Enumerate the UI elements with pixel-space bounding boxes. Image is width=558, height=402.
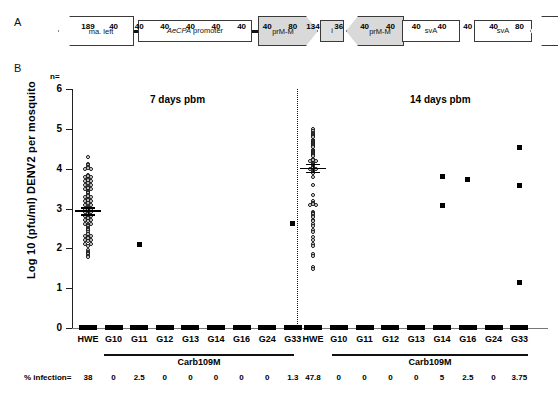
zero-bar-9 <box>304 325 322 330</box>
data-point <box>311 193 315 197</box>
zero-bar-13 <box>407 325 425 330</box>
data-point <box>86 255 90 259</box>
y-tick-label-3: 3 <box>48 203 62 214</box>
y-tick-label-5: 5 <box>48 123 62 134</box>
data-point <box>311 244 315 248</box>
data-point <box>440 203 445 208</box>
zero-bar-12 <box>381 325 399 330</box>
zero-bar-15 <box>459 325 477 330</box>
data-point <box>517 145 522 150</box>
y-tick-4 <box>66 169 72 170</box>
y-tick-label-0: 0 <box>48 322 62 333</box>
zero-bar-14 <box>433 325 451 330</box>
panel-a-letter: A <box>14 16 21 28</box>
data-point <box>137 242 142 247</box>
data-point <box>517 183 522 188</box>
y-tick-3 <box>66 209 72 210</box>
zero-bar-17 <box>510 325 528 330</box>
zero-bar-4 <box>181 325 199 330</box>
data-point <box>311 175 315 179</box>
construct-element-prm-m-anti: prM-M <box>346 16 404 46</box>
n-value-17: 80 <box>504 22 534 31</box>
data-point <box>311 238 315 242</box>
y-axis-line <box>72 89 73 328</box>
data-point <box>311 254 315 258</box>
group-caption-7-days: Carb109M <box>144 357 254 367</box>
zero-bar-16 <box>485 325 503 330</box>
y-tick-0 <box>66 328 72 329</box>
y-tick-label-6: 6 <box>48 83 62 94</box>
y-tick-label-4: 4 <box>48 163 62 174</box>
scatter-plot: Log 10 (pfu/ml) DENV2 per mosquito 7 day… <box>0 56 558 402</box>
zero-bar-8 <box>284 325 302 330</box>
x-tick-label-17-g33: G33 <box>504 334 534 344</box>
construct-element-egfp: EGFP <box>530 16 558 46</box>
construct-element-ma-left: ma. left <box>58 16 134 46</box>
error-bar-cap-lower <box>306 172 320 174</box>
group-caption-14-days: Carb109M <box>375 357 485 367</box>
zero-bar-1 <box>105 325 123 330</box>
zero-bar-5 <box>207 325 225 330</box>
data-point <box>440 174 445 179</box>
phase-label-14-days: 14 days pbm <box>410 94 471 105</box>
data-point <box>83 167 87 171</box>
data-point <box>86 155 90 159</box>
pct-infection-row-label: % infection= <box>24 373 71 382</box>
zero-bar-10 <box>330 325 348 330</box>
pct-infection-value-17: 3.75 <box>504 373 534 382</box>
data-point <box>311 183 315 187</box>
data-point <box>314 203 318 207</box>
construct-element-prm-m-sense: prM-M <box>258 16 318 46</box>
group-line-7-days <box>104 354 294 356</box>
data-point <box>89 167 93 171</box>
zero-bar-0 <box>79 325 97 330</box>
phase-divider <box>297 89 298 328</box>
error-bar-cap-lower <box>81 214 95 216</box>
zero-bar-2 <box>130 325 148 330</box>
data-point <box>308 203 312 207</box>
error-bar-cap-upper <box>81 207 95 209</box>
y-tick-label-1: 1 <box>48 282 62 293</box>
data-point <box>290 221 295 226</box>
data-point <box>311 230 315 234</box>
zero-bar-6 <box>233 325 251 330</box>
zero-bar-7 <box>258 325 276 330</box>
group-line-14-days <box>332 354 528 356</box>
phase-label-7-days: 7 days pbm <box>150 94 205 105</box>
zero-bar-11 <box>356 325 374 330</box>
data-point <box>311 267 315 271</box>
y-tick-1 <box>66 288 72 289</box>
y-tick-5 <box>66 129 72 130</box>
y-tick-2 <box>66 248 72 249</box>
zero-bar-3 <box>156 325 174 330</box>
data-point <box>517 280 522 285</box>
n-row-label: n= <box>50 72 60 81</box>
y-axis-label: Log 10 (pfu/ml) DENV2 per mosquito <box>25 65 37 295</box>
data-point <box>465 177 470 182</box>
y-tick-label-2: 2 <box>48 242 62 253</box>
error-bar-cap-upper <box>306 164 320 166</box>
y-tick-6 <box>66 89 72 90</box>
